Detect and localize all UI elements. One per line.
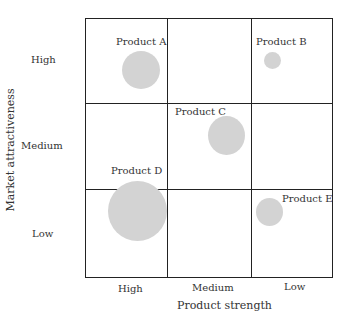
x-tick-medium: Medium bbox=[192, 282, 234, 293]
y-tick-high: High bbox=[31, 54, 56, 65]
product-b-bubble bbox=[264, 52, 281, 69]
y-tick-medium: Medium bbox=[21, 140, 63, 151]
grid-divider-v2 bbox=[251, 19, 252, 277]
product-a-bubble bbox=[122, 51, 160, 89]
y-axis-title: Market attractiveness bbox=[4, 88, 17, 211]
product-e-label: Product E bbox=[282, 193, 332, 204]
y-tick-low: Low bbox=[32, 228, 53, 239]
product-d-bubble bbox=[108, 181, 167, 241]
product-d-label: Product D bbox=[111, 165, 162, 176]
product-b-label: Product B bbox=[256, 36, 307, 47]
product-e-bubble bbox=[256, 198, 283, 226]
grid-divider-v1 bbox=[167, 19, 168, 277]
x-tick-high: High bbox=[118, 283, 143, 294]
grid-divider-h1 bbox=[86, 103, 332, 104]
product-c-label: Product C bbox=[175, 106, 226, 117]
matrix-grid bbox=[85, 18, 333, 278]
product-a-label: Product A bbox=[116, 36, 166, 47]
product-c-bubble bbox=[208, 116, 245, 155]
x-axis-title: Product strength bbox=[177, 299, 272, 312]
x-tick-low: Low bbox=[284, 281, 305, 292]
